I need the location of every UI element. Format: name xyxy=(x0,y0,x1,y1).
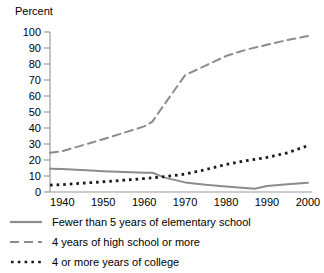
y-axis: 0102030405060708090100 xyxy=(23,26,50,198)
plot-area: 0102030405060708090100 19401950196019701… xyxy=(0,0,324,212)
legend-label-high-school: 4 years of high school or more xyxy=(52,236,200,249)
dashed-line-swatch xyxy=(8,236,44,248)
series-line-1 xyxy=(50,36,308,153)
y-tick-label: 90 xyxy=(29,42,41,54)
dotted-line-swatch xyxy=(8,256,44,268)
y-tick-label: 100 xyxy=(23,26,41,38)
data-series-group xyxy=(50,36,308,189)
y-tick-label: 60 xyxy=(29,90,41,102)
series-line-2 xyxy=(50,146,308,186)
legend-item-college: 4 or more years of college xyxy=(0,252,324,272)
x-tick-label: 1960 xyxy=(132,196,156,208)
y-tick-label: 40 xyxy=(29,122,41,134)
legend-item-high-school: 4 years of high school or more xyxy=(0,232,324,252)
y-tick-label: 70 xyxy=(29,74,41,86)
x-tick-label: 1950 xyxy=(91,196,115,208)
y-tick-label: 80 xyxy=(29,58,41,70)
y-tick-label: 20 xyxy=(29,154,41,166)
y-tick-label: 30 xyxy=(29,138,41,150)
y-tick-label: 50 xyxy=(29,106,41,118)
x-tick-label: 1940 xyxy=(50,196,74,208)
x-tick-label: 1980 xyxy=(214,196,238,208)
line-chart: Percent 0102030405060708090100 194019501… xyxy=(0,0,324,273)
legend: Fewer than 5 years of elementary school … xyxy=(0,212,324,272)
x-tick-label: 1990 xyxy=(255,196,279,208)
x-tick-label: 1970 xyxy=(173,196,197,208)
x-axis: 1940195019601970198019902000 xyxy=(50,192,320,208)
legend-label-college: 4 or more years of college xyxy=(52,256,179,269)
legend-item-elementary: Fewer than 5 years of elementary school xyxy=(0,212,324,232)
y-tick-label: 10 xyxy=(29,170,41,182)
legend-label-elementary: Fewer than 5 years of elementary school xyxy=(52,216,251,229)
series-line-0 xyxy=(50,169,308,189)
y-tick-label: 0 xyxy=(35,186,41,198)
solid-line-swatch xyxy=(8,216,44,228)
x-tick-label: 2000 xyxy=(296,196,320,208)
